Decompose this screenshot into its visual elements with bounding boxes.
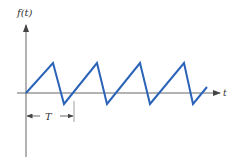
x-axis-label: t: [223, 88, 227, 98]
sawtooth-waveform: [26, 63, 207, 104]
y-axis-label: f(t): [16, 7, 33, 18]
sawtooth-diagram: f(t) t T: [0, 0, 238, 163]
period-label: T: [45, 111, 53, 122]
